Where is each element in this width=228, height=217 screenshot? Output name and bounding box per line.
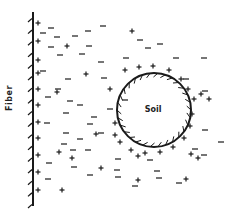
plus-charge-icon <box>199 92 204 97</box>
soil-hatch <box>167 78 173 80</box>
positive-charges <box>36 21 212 193</box>
plus-charge-icon <box>171 145 176 150</box>
fiber-soil-charge-diagram <box>0 0 228 217</box>
plus-charge-icon <box>57 150 62 155</box>
plus-charge-icon <box>136 154 141 159</box>
plus-charge-icon <box>123 68 128 73</box>
plus-charge-icon <box>60 188 65 193</box>
fiber-surface <box>28 12 33 208</box>
negative-charges <box>40 26 224 186</box>
soil-label: Soil <box>138 105 168 117</box>
plus-charge-icon <box>182 136 187 141</box>
plus-charge-icon <box>36 136 41 141</box>
plus-charge-icon <box>136 178 141 183</box>
soil-hatch <box>143 142 148 145</box>
plus-charge-icon <box>94 132 99 137</box>
soil-hatch <box>129 137 135 138</box>
plus-charge-icon <box>179 77 184 82</box>
plus-charge-icon <box>118 140 123 145</box>
plus-charge-icon <box>137 65 142 70</box>
fiber-label: Fiber <box>5 78 17 118</box>
plus-charge-icon <box>129 148 134 153</box>
soil-hatch <box>160 75 165 78</box>
plus-charge-icon <box>70 156 75 161</box>
soil-hatch <box>186 120 188 125</box>
plus-charge-icon <box>36 58 41 63</box>
plus-charge-icon <box>36 188 41 193</box>
plus-charge-icon <box>36 120 41 125</box>
plus-charge-icon <box>151 64 156 69</box>
plus-charge-icon <box>99 166 104 171</box>
plus-charge-icon <box>84 72 89 77</box>
soil-hatch <box>124 88 125 94</box>
plus-charge-icon <box>207 97 212 102</box>
plus-charge-icon <box>167 68 172 73</box>
soil-hatch <box>183 126 184 132</box>
plus-charge-icon <box>36 71 41 76</box>
plus-charge-icon <box>143 151 148 156</box>
plus-charge-icon <box>189 152 194 157</box>
plus-charge-icon <box>192 97 197 102</box>
plus-charge-icon <box>36 21 41 26</box>
plus-charge-icon <box>55 90 60 95</box>
plus-charge-icon <box>36 87 41 92</box>
soil-hatch <box>178 88 184 89</box>
plus-charge-icon <box>113 121 118 126</box>
plus-charge-icon <box>130 29 135 34</box>
soil-hatch <box>124 132 130 133</box>
soil-hatch <box>136 140 142 142</box>
soil-hatch <box>173 83 179 84</box>
plus-charge-icon <box>108 87 113 92</box>
plus-charge-icon <box>36 153 41 158</box>
plus-charge-icon <box>65 44 70 49</box>
plus-charge-icon <box>158 150 163 155</box>
plus-charge-icon <box>184 177 189 182</box>
plus-charge-icon <box>36 170 41 175</box>
plus-charge-icon <box>113 133 118 138</box>
plus-charge-icon <box>196 156 201 161</box>
plus-charge-icon <box>36 103 41 108</box>
plus-charge-icon <box>36 39 41 44</box>
